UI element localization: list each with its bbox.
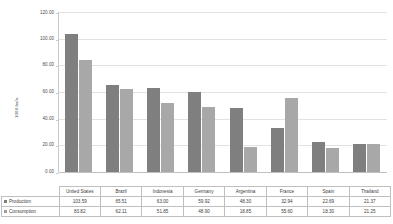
table-row-consumption: Consumption 83.82 62.11 51.85 48.90 18.8… <box>2 207 391 217</box>
production-swatch-icon <box>4 200 7 203</box>
cell-production-united-states: 103.59 <box>59 197 100 207</box>
table-category-france: France <box>266 187 307 197</box>
bar-groups <box>58 12 387 172</box>
table-category-argentina: Argentina <box>225 187 266 197</box>
y-tick-label-40: 40.00 <box>22 116 54 121</box>
bar-production-germany <box>188 92 201 172</box>
bar-consumption-united-states <box>79 60 92 172</box>
table-category-united-states: United States <box>59 187 100 197</box>
cell-consumption-brazil: 62.11 <box>100 207 141 217</box>
cell-production-indonesia: 63.00 <box>142 197 183 207</box>
legend-label-consumption: Consumption <box>9 209 36 214</box>
table-category-indonesia: Indonesia <box>142 187 183 197</box>
plot-area: 1000 ha/a 120.00 100.00 80.00 60.00 40.0… <box>0 6 393 184</box>
table-corner-cell <box>2 187 60 197</box>
table-row-production: Production 103.59 65.51 63.00 59.92 48.3… <box>2 197 391 207</box>
table-header-row: United States Brazil Indonesia Germany A… <box>2 187 391 197</box>
y-tick-label-60: 60.00 <box>22 89 54 94</box>
bar-production-spain <box>312 142 325 172</box>
bar-production-thailand <box>353 144 366 172</box>
table-category-spain: Spain <box>308 187 349 197</box>
bar-production-argentina <box>230 108 243 172</box>
bar-chart-figure: 1000 ha/a 120.00 100.00 80.00 60.00 40.0… <box>0 0 393 224</box>
y-axis-title: 1000 ha/a <box>12 78 22 138</box>
cell-production-thailand: 21.37 <box>349 197 390 207</box>
bar-production-france <box>271 128 284 172</box>
y-tick-label-80: 80.00 <box>22 62 54 67</box>
bar-consumption-indonesia <box>161 103 174 172</box>
bar-group-france <box>264 12 305 172</box>
cell-consumption-germany: 48.90 <box>183 207 224 217</box>
tick-0 <box>56 173 59 174</box>
bar-production-brazil <box>106 85 119 172</box>
cell-production-brazil: 65.51 <box>100 197 141 207</box>
bar-group-united-states <box>58 12 99 172</box>
legend-item-production: Production <box>2 197 60 207</box>
cell-production-germany: 59.92 <box>183 197 224 207</box>
bar-group-thailand <box>346 12 387 172</box>
bar-consumption-argentina <box>244 147 257 172</box>
bar-group-indonesia <box>140 12 181 172</box>
y-tick-label-0: 0.00 <box>22 169 54 174</box>
bar-consumption-thailand <box>367 144 380 172</box>
bar-group-spain <box>305 12 346 172</box>
consumption-swatch-icon <box>4 210 7 213</box>
y-tick-label-120: 120.00 <box>22 10 54 15</box>
cell-consumption-argentina: 18.85 <box>225 207 266 217</box>
chart-data-table: United States Brazil Indonesia Germany A… <box>1 186 391 217</box>
bar-group-brazil <box>99 12 140 172</box>
cell-consumption-spain: 18.30 <box>308 207 349 217</box>
y-tick-label-20: 20.00 <box>22 142 54 147</box>
legend-label-production: Production <box>9 199 31 204</box>
cell-consumption-indonesia: 51.85 <box>142 207 183 217</box>
bar-consumption-germany <box>202 107 215 172</box>
bar-consumption-france <box>285 98 298 172</box>
cell-consumption-france: 55.60 <box>266 207 307 217</box>
cell-production-spain: 22.69 <box>308 197 349 207</box>
bar-production-indonesia <box>147 88 160 172</box>
cell-consumption-thailand: 21.25 <box>349 207 390 217</box>
table-category-brazil: Brazil <box>100 187 141 197</box>
cell-production-argentina: 48.30 <box>225 197 266 207</box>
bar-group-argentina <box>223 12 264 172</box>
gridline-0 <box>59 172 387 173</box>
bar-consumption-brazil <box>120 89 133 172</box>
table-category-germany: Germany <box>183 187 224 197</box>
legend-item-consumption: Consumption <box>2 207 60 217</box>
cell-production-france: 32.94 <box>266 197 307 207</box>
y-tick-label-100: 100.00 <box>22 36 54 41</box>
bar-production-united-states <box>65 34 78 172</box>
cell-consumption-united-states: 83.82 <box>59 207 100 217</box>
bar-group-germany <box>181 12 222 172</box>
table-category-thailand: Thailand <box>349 187 390 197</box>
bar-consumption-spain <box>326 148 339 172</box>
